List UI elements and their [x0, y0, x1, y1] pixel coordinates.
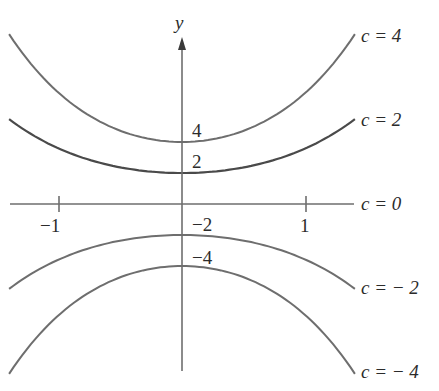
- x-tick-label-neg1: −1: [40, 215, 60, 236]
- curve-label-cneg2: c = − 2: [361, 277, 419, 298]
- intercept-label-neg2: −2: [192, 214, 212, 235]
- intercept-label-neg4: −4: [192, 247, 213, 268]
- intercept-label-4: 4: [192, 120, 202, 141]
- intercept-label-2: 2: [192, 151, 202, 172]
- curve-label-c0: c = 0: [361, 193, 402, 214]
- y-axis-label: y: [173, 12, 184, 33]
- curve-label-c2: c = 2: [361, 109, 402, 130]
- x-tick-label-pos1: 1: [300, 215, 310, 236]
- y-axis-arrow-icon: [178, 37, 186, 50]
- level-curves-chart: y −1 1 4 2 −2 −4 c = 4 c = 2 c = 0 c = −…: [0, 0, 439, 391]
- curve-label-cneg4: c = − 4: [361, 361, 419, 382]
- curve-label-c4: c = 4: [361, 25, 402, 46]
